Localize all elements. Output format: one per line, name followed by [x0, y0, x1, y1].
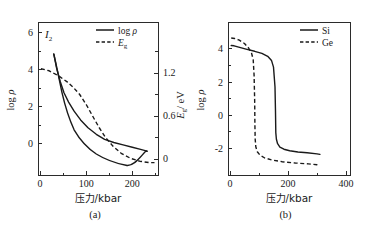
- x-tick-label-b-0: 0: [228, 178, 233, 189]
- y-tick-label-b-4: 4: [218, 43, 223, 54]
- x-tick-label-a-100: 100: [79, 178, 94, 189]
- svg-text:log ρ: log ρ: [5, 89, 16, 110]
- legend-a-label-logrho: log ρ: [118, 26, 138, 36]
- x-tick-label-a-0: 0: [38, 178, 43, 189]
- panel-b: -2 0 2 4 log ρ 0 200 400: [190, 0, 381, 231]
- legend-a-label-eg: Eg: [117, 38, 128, 50]
- curve-a-log-rho: [54, 54, 147, 165]
- y-tick-label-b-0: 0: [218, 110, 223, 121]
- x-axis-title-b: 压力/kbar: [266, 192, 314, 204]
- y-axis-left-ticks-a: [38, 33, 42, 144]
- legend-a: log ρ Eg: [96, 26, 138, 50]
- x-tick-label-a-200: 200: [125, 178, 140, 189]
- y-axis-ticks-b: [228, 49, 232, 149]
- y-tick-label-b-2: 2: [218, 77, 223, 88]
- curve-a-log-rho-path: [54, 54, 147, 151]
- y-right-tick-label-a-12: 1.2: [163, 67, 176, 78]
- y-tick-label-a-6: 6: [28, 27, 33, 38]
- svg-text:log ρ: log ρ: [195, 89, 206, 110]
- legend-b: Si Ge: [300, 26, 333, 48]
- curve-b-si: [231, 46, 320, 155]
- y-axis-right-title-a: Eg/ eV: [175, 91, 188, 120]
- caption-a-wrap: (a): [0, 204, 190, 222]
- y-tick-label-a-0: 0: [28, 138, 33, 149]
- panel-a-plot: 0 2 4 6 log ρ 0 0.6 1.2: [0, 0, 190, 231]
- legend-b-label-ge: Ge: [322, 38, 333, 48]
- x-axis-ticks-a: [40, 171, 155, 175]
- svg-text:Eg/ eV: Eg/ eV: [175, 91, 188, 120]
- y-right-title-unit: / eV: [175, 91, 186, 109]
- panel-b-plot: -2 0 2 4 log ρ 0 200 400: [190, 0, 381, 231]
- plot-frame-a: [38, 22, 158, 175]
- y-right-tick-label-a-0: 0: [163, 153, 168, 164]
- x-tick-label-b-400: 400: [339, 178, 354, 189]
- y-axis-title-b-main: log: [195, 95, 206, 111]
- x-axis-title-a-cn: 压力: [75, 192, 95, 204]
- x-axis-title-b-cn: 压力: [266, 192, 286, 204]
- y-tick-label-a-4: 4: [28, 64, 33, 75]
- sample-label-a-sub: 2: [49, 35, 53, 43]
- panel-caption-a: (a): [89, 209, 101, 220]
- y-right-tick-label-a-06: 0.6: [163, 110, 176, 121]
- y-axis-title-b-rho: ρ: [195, 89, 206, 95]
- x-tick-label-b-200: 200: [281, 178, 296, 189]
- y-axis-title-b: log ρ: [195, 89, 206, 110]
- figure-container: 0 2 4 6 log ρ 0 0.6 1.2: [0, 0, 381, 231]
- panel-caption-b: (b): [279, 209, 291, 220]
- y-axis-title-a-rho: ρ: [5, 89, 16, 95]
- y-axis-left-title-a: log ρ: [5, 89, 16, 110]
- y-tick-label-a-2: 2: [28, 101, 33, 112]
- sample-label-a: I2: [44, 28, 53, 43]
- y-tick-label-b-m2: -2: [215, 143, 223, 154]
- x-axis-ticks-b: [230, 171, 346, 175]
- legend-b-label-si: Si: [322, 26, 330, 36]
- x-axis-title-b-unit: kbar: [289, 192, 313, 204]
- panel-a: 0 2 4 6 log ρ 0 0.6 1.2: [0, 0, 190, 231]
- caption-b-wrap: (b): [190, 204, 381, 222]
- x-axis-title-a-unit: kbar: [98, 192, 122, 204]
- y-axis-right-ticks-b: [154, 52, 158, 160]
- x-axis-title-a: 压力/kbar: [75, 192, 123, 204]
- y-axis-title-a-main: log: [5, 95, 16, 111]
